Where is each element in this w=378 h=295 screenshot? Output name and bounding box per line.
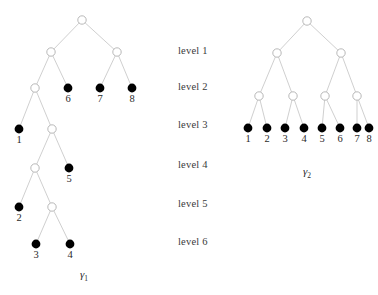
tree-node-filled: [64, 84, 73, 93]
tree-node-filled: [318, 124, 327, 133]
tree-node-open: [31, 164, 39, 172]
tree-node-filled: [128, 84, 137, 93]
tree-edge: [322, 96, 325, 128]
tree-edge: [35, 129, 52, 168]
tree-edge: [117, 52, 132, 88]
tree-edge: [51, 20, 82, 52]
leaf-label: 4: [67, 249, 72, 260]
node-group: [15, 16, 137, 249]
tree-node-filled: [32, 240, 41, 249]
tree-node-open: [303, 17, 311, 25]
tree-edge: [19, 168, 35, 207]
tree-gamma-1: [15, 16, 137, 249]
leaf-label: 3: [33, 249, 38, 260]
leaf-label: 4: [301, 133, 306, 144]
leaf-label: 1: [245, 133, 250, 144]
tree-edge: [259, 96, 267, 128]
caption-subscript: 1: [84, 274, 88, 283]
tree-edge: [52, 207, 70, 244]
tree-caption-gamma-2: γ2: [303, 165, 311, 180]
tree-edge: [35, 52, 51, 88]
tree-edge: [285, 96, 293, 128]
leaf-label: 3: [282, 133, 287, 144]
tree-node-open: [31, 84, 39, 92]
tree-edge: [100, 52, 117, 88]
tree-edge: [325, 53, 341, 96]
level-label-2: level 2: [178, 81, 208, 92]
tree-edge: [52, 129, 69, 168]
tree-edge: [35, 88, 52, 129]
leaf-label: 5: [319, 133, 324, 144]
tree-edge: [341, 53, 357, 96]
tree-node-filled: [65, 164, 74, 173]
leaf-label: 1: [16, 134, 21, 145]
tree-node-open: [78, 16, 86, 24]
tree-edge: [293, 96, 304, 128]
tree-edge: [51, 52, 68, 88]
tree-edge: [325, 96, 340, 128]
tree-edge: [248, 96, 259, 128]
tree-node-filled: [300, 124, 309, 133]
tree-gamma-2: [244, 17, 374, 133]
tree-node-open: [353, 92, 361, 100]
level-label-4: level 4: [178, 159, 208, 170]
tree-edge: [19, 88, 35, 129]
tree-node-open: [48, 125, 56, 133]
leaf-label: 6: [337, 133, 342, 144]
leaf-label: 8: [366, 133, 371, 144]
tree-node-filled: [365, 124, 374, 133]
tree-edge: [82, 20, 117, 52]
tree-edge: [259, 53, 277, 96]
level-label-6: level 6: [178, 236, 208, 247]
tree-node-filled: [244, 124, 253, 133]
leaf-label: 8: [129, 93, 134, 104]
tree-node-open: [47, 48, 55, 56]
tree-node-filled: [15, 203, 24, 212]
tree-edge: [277, 53, 293, 96]
level-label-5: level 5: [178, 198, 208, 209]
tree-node-open: [289, 92, 297, 100]
leaf-label: 2: [264, 133, 269, 144]
tree-edge: [36, 207, 52, 244]
tree-edge: [307, 21, 341, 53]
tree-node-filled: [263, 124, 272, 133]
leaf-label: 2: [16, 212, 21, 223]
tree-node-filled: [353, 124, 362, 133]
tree-node-open: [255, 92, 263, 100]
leaf-label: 6: [65, 93, 70, 104]
tree-node-open: [273, 49, 281, 57]
tree-caption-gamma-1: γ1: [80, 268, 88, 283]
leaf-label: 7: [354, 133, 359, 144]
level-label-1: level 1: [178, 45, 208, 56]
node-group: [244, 17, 374, 133]
tree-node-open: [113, 48, 121, 56]
tree-node-filled: [281, 124, 290, 133]
tree-node-open: [321, 92, 329, 100]
edge-group: [248, 21, 369, 128]
tree-node-filled: [66, 240, 75, 249]
tree-node-filled: [336, 124, 345, 133]
tree-edge: [35, 168, 52, 207]
leaf-label: 7: [97, 93, 102, 104]
tree-node-open: [48, 203, 56, 211]
level-label-3: level 3: [178, 119, 208, 130]
caption-subscript: 2: [307, 171, 311, 180]
tree-edge: [357, 96, 369, 128]
tree-node-filled: [96, 84, 105, 93]
tree-edge: [277, 21, 307, 53]
tree-node-open: [337, 49, 345, 57]
tree-node-filled: [15, 125, 24, 134]
binary-tree-figure: 67815234γ112345678γ2level 1level 2level …: [0, 0, 378, 295]
leaf-label: 5: [66, 173, 71, 184]
